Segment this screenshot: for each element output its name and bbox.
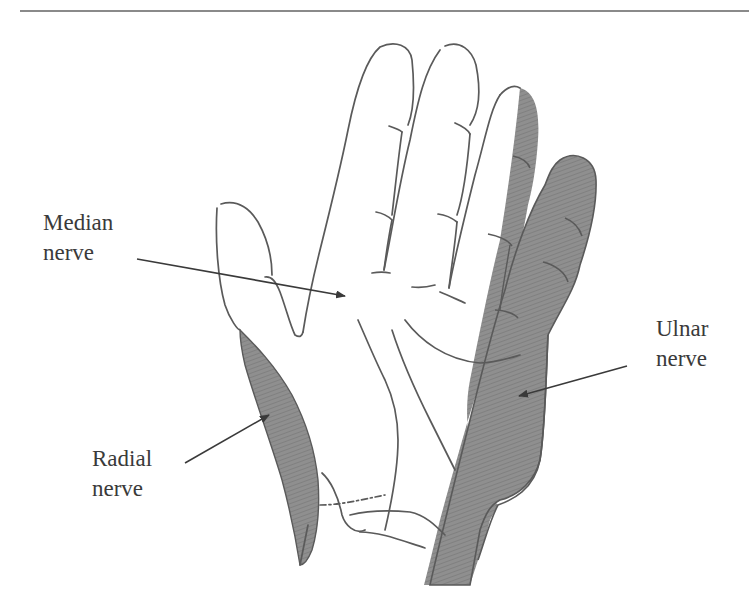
- median-label-line2: nerve: [43, 238, 113, 268]
- radial-nerve-arrow: [185, 415, 269, 463]
- hand-illustration: [0, 0, 749, 593]
- ulnar-label-line1: Ulnar: [656, 314, 708, 344]
- ulnar-label-line2: nerve: [656, 344, 708, 374]
- radial-nerve-label: Radial nerve: [92, 444, 152, 504]
- hand-nerve-diagram: Median nerve Radial nerve Ulnar nerve: [0, 0, 749, 593]
- radial-label-line2: nerve: [92, 474, 152, 504]
- ulnar-nerve-label: Ulnar nerve: [656, 314, 708, 374]
- median-label-line1: Median: [43, 208, 113, 238]
- radial-label-line1: Radial: [92, 444, 152, 474]
- median-nerve-label: Median nerve: [43, 208, 113, 268]
- ulnar-nerve-region: [424, 88, 596, 585]
